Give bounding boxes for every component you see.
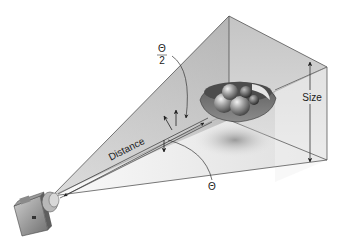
size-label: Size xyxy=(302,92,322,103)
camera xyxy=(14,192,59,236)
fruit xyxy=(222,84,238,100)
viewing-frustum xyxy=(52,16,327,196)
half-angle-numerator: Θ xyxy=(158,43,166,54)
fruit xyxy=(240,86,252,98)
full-angle-label: Θ xyxy=(208,181,216,192)
bowl-shadow xyxy=(193,122,277,158)
fruit xyxy=(249,95,259,105)
camera-frustum-diagram: Θ 2 Θ Distance Size xyxy=(0,0,341,238)
half-angle-denominator: 2 xyxy=(159,55,165,66)
